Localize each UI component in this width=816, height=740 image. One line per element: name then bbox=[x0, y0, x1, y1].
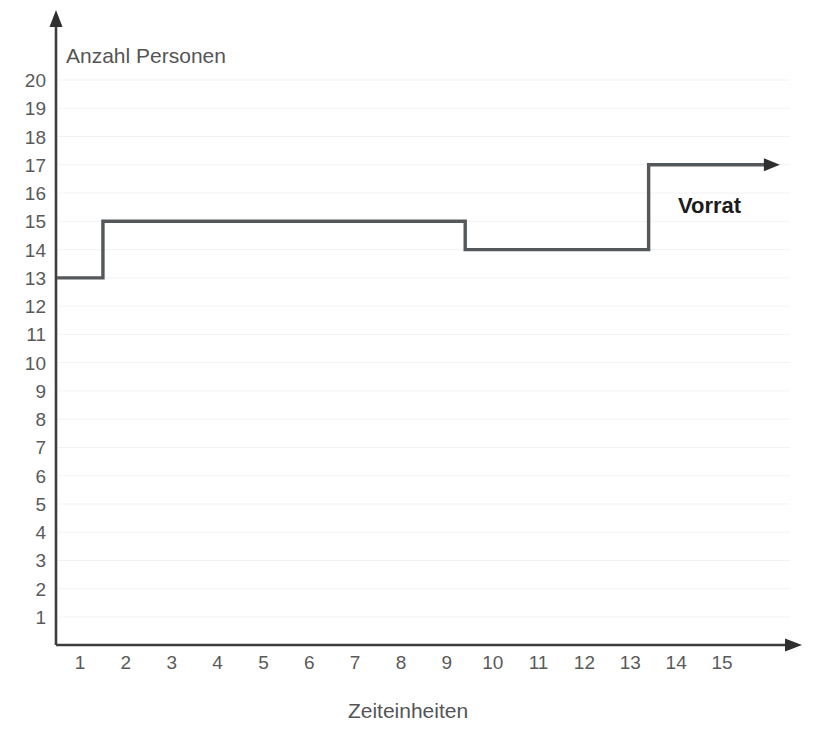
x-axis-tick-label: 13 bbox=[620, 652, 641, 673]
y-axis-tick-label: 3 bbox=[35, 550, 46, 571]
y-axis-tick-label: 7 bbox=[35, 437, 46, 458]
x-axis-arrow-icon bbox=[785, 639, 802, 652]
y-axis-tick-label: 2 bbox=[35, 579, 46, 600]
y-axis-tick-label: 1 bbox=[35, 607, 46, 628]
x-axis-tick-labels: 123456789101112131415 bbox=[75, 652, 733, 673]
y-axis-tick-label: 5 bbox=[35, 494, 46, 515]
y-axis-tick-label: 4 bbox=[35, 522, 46, 543]
y-axis-tick-label: 17 bbox=[25, 155, 46, 176]
series-annotation-vorrat: Vorrat bbox=[678, 193, 742, 218]
gridlines-group bbox=[58, 80, 790, 617]
x-axis-tick-label: 2 bbox=[121, 652, 132, 673]
chart-container: 1234567891011121314151617181920 12345678… bbox=[0, 0, 816, 740]
step-chart-svg: 1234567891011121314151617181920 12345678… bbox=[0, 0, 816, 740]
x-axis-tick-label: 7 bbox=[350, 652, 361, 673]
x-axis-tick-label: 8 bbox=[396, 652, 407, 673]
y-axis-tick-labels: 1234567891011121314151617181920 bbox=[25, 70, 47, 628]
y-axis-tick-label: 15 bbox=[25, 211, 46, 232]
y-axis-tick-label: 20 bbox=[25, 70, 46, 91]
x-axis-tick-label: 12 bbox=[574, 652, 595, 673]
x-axis-tick-label: 3 bbox=[166, 652, 177, 673]
x-axis-tick-label: 11 bbox=[529, 652, 549, 673]
y-axis-tick-label: 18 bbox=[25, 127, 46, 148]
x-axis-tick-label: 1 bbox=[75, 652, 86, 673]
x-axis-tick-label: 15 bbox=[711, 652, 732, 673]
x-axis-title: Zeiteinheiten bbox=[348, 699, 468, 722]
x-axis-tick-label: 14 bbox=[666, 652, 688, 673]
y-axis-tick-label: 6 bbox=[35, 466, 46, 487]
x-axis-tick-label: 10 bbox=[482, 652, 503, 673]
y-axis-tick-label: 19 bbox=[25, 98, 46, 119]
y-axis-tick-label: 10 bbox=[25, 353, 46, 374]
y-axis-tick-label: 14 bbox=[25, 240, 47, 261]
y-axis-tick-label: 16 bbox=[25, 183, 46, 204]
x-axis-tick-label: 9 bbox=[442, 652, 453, 673]
x-axis-tick-label: 6 bbox=[304, 652, 315, 673]
y-axis-arrow-icon bbox=[50, 10, 63, 27]
x-axis-tick-label: 4 bbox=[212, 652, 223, 673]
series-end-arrow-icon bbox=[764, 158, 780, 171]
y-axis-tick-label: 9 bbox=[35, 381, 46, 402]
x-axis-tick-label: 5 bbox=[258, 652, 269, 673]
y-axis-tick-label: 12 bbox=[25, 296, 46, 317]
y-axis-tick-label: 8 bbox=[35, 409, 46, 430]
y-axis-title: Anzahl Personen bbox=[66, 44, 226, 67]
y-axis-tick-label: 13 bbox=[25, 268, 46, 289]
y-axis-tick-label: 11 bbox=[26, 324, 46, 345]
